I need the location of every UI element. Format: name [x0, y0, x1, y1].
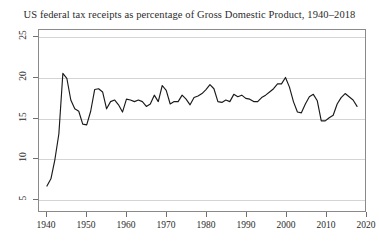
x-tick-mark [86, 212, 87, 217]
y-tick-mark [33, 118, 38, 119]
y-tick-label: 15 [18, 106, 28, 128]
x-tick-label: 1980 [186, 220, 226, 230]
x-tick-label: 2020 [346, 220, 379, 230]
x-tick-label: 1940 [26, 220, 66, 230]
y-tick-mark [33, 158, 38, 159]
x-tick-label: 2010 [306, 220, 346, 230]
series-line [39, 30, 365, 211]
x-tick-mark [326, 212, 327, 217]
x-tick-mark [126, 212, 127, 217]
x-tick-mark [286, 212, 287, 217]
x-tick-label: 1960 [106, 220, 146, 230]
chart-title: US federal tax receipts as percentage of… [0, 9, 379, 20]
x-tick-mark [166, 212, 167, 217]
plot-area [38, 29, 366, 212]
x-tick-label: 1950 [66, 220, 106, 230]
x-tick-mark [46, 212, 47, 217]
y-tick-mark [33, 199, 38, 200]
x-tick-mark [206, 212, 207, 217]
y-tick-label: 20 [18, 65, 28, 87]
y-tick-label: 5 [18, 187, 28, 209]
x-tick-label: 1990 [226, 220, 266, 230]
x-tick-mark [366, 212, 367, 217]
x-tick-label: 2000 [266, 220, 306, 230]
y-tick-mark [33, 36, 38, 37]
x-tick-label: 1970 [146, 220, 186, 230]
x-tick-mark [246, 212, 247, 217]
y-tick-label: 25 [18, 24, 28, 46]
y-tick-label: 10 [18, 146, 28, 168]
chart-figure: US federal tax receipts as percentage of… [0, 0, 379, 244]
y-tick-mark [33, 77, 38, 78]
